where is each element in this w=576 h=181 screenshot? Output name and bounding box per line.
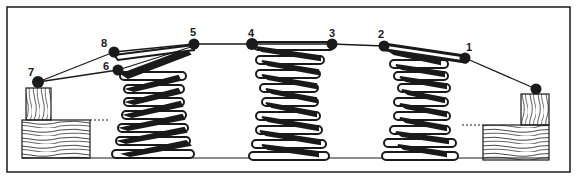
right-rail xyxy=(462,94,549,160)
knot-label-1: 1 xyxy=(466,41,472,53)
knot-4 xyxy=(246,38,258,50)
left-spring xyxy=(112,45,194,158)
spring-tying-diagram: 1 2 3 4 5 6 7 8 xyxy=(0,0,576,181)
knot-label-3: 3 xyxy=(329,27,335,39)
knot-label-5: 5 xyxy=(190,26,196,38)
knot-2 xyxy=(379,41,390,52)
left-rail xyxy=(22,88,108,158)
knot-label-2: 2 xyxy=(378,28,384,40)
right-spring xyxy=(382,44,465,160)
knot-6 xyxy=(113,65,124,76)
knot-8 xyxy=(109,47,120,58)
knot-label-4: 4 xyxy=(248,27,255,39)
knot-5 xyxy=(189,39,200,50)
knot-3 xyxy=(327,39,338,50)
knot-label-7: 7 xyxy=(28,66,34,78)
knot-right-rail xyxy=(531,84,542,95)
knot-1 xyxy=(460,53,471,64)
knot-label-6: 6 xyxy=(103,60,109,72)
center-spring xyxy=(249,42,334,160)
knot-label-8: 8 xyxy=(101,37,107,49)
